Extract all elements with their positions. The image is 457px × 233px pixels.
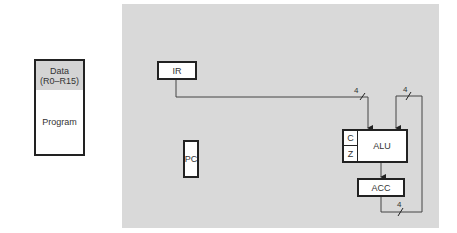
carry-flag-label: C (347, 133, 354, 143)
zero-flag: Z (344, 146, 358, 161)
ir-to-alu-bus (176, 79, 368, 128)
pc-label: PC (185, 154, 198, 164)
pc-register: PC (183, 140, 199, 178)
bus-width-label-feedback: 4 (403, 85, 407, 94)
alu-block: C Z ALU (342, 129, 408, 163)
bus-width-label-acc: 4 (397, 200, 401, 209)
bus-width-label-ir: 4 (354, 86, 358, 95)
bus-wires (0, 0, 457, 233)
acc-register: ACC (357, 178, 405, 197)
carry-flag: C (344, 131, 358, 146)
alu-label: ALU (358, 131, 406, 161)
zero-flag-label: Z (348, 149, 354, 159)
ir-register: IR (157, 61, 197, 80)
acc-label: ACC (371, 183, 390, 193)
ir-label: IR (173, 66, 182, 76)
